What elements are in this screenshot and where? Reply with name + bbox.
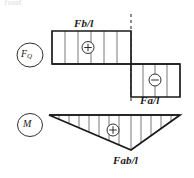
moment-peak-label: Fab/l	[113, 155, 138, 166]
beam-diagram-figure: ƒυıαℓ	[0, 0, 194, 178]
moment-diagram-group	[18, 114, 181, 151]
shear-diagram-marker-label: FQ	[21, 49, 32, 60]
shear-positive-label: Fb/l	[74, 18, 93, 29]
shear-diagram-group	[17, 31, 180, 97]
shear-negative-label: Fa/l	[140, 95, 159, 106]
diagram-canvas	[0, 0, 194, 178]
moment-diagram-marker-label: M	[23, 119, 31, 129]
shear-marker-subscript: Q	[27, 52, 32, 60]
